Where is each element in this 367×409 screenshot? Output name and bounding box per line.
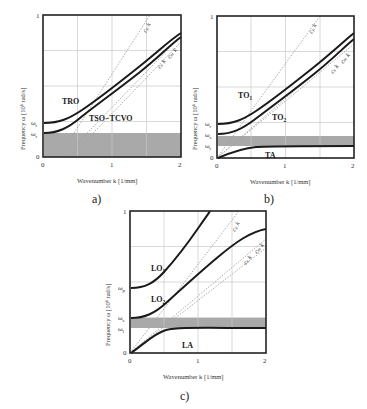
label-to2: TO2 bbox=[272, 113, 286, 123]
x-axis-label-c: Wavenumber k [1/mm] bbox=[163, 373, 224, 381]
y-axis-label-b: Frequency ω [10⁶ rad/s] bbox=[191, 88, 199, 150]
ytick-1-c: 1 bbox=[123, 208, 127, 216]
xtick-2-b: 2 bbox=[351, 162, 355, 170]
ytick-0-b: 0 bbox=[210, 154, 214, 162]
panel-caption-a: a) bbox=[92, 192, 101, 206]
x-axis-label-b: Wavenumber k [1/mm] bbox=[250, 178, 311, 186]
ytick-1-b: 1 bbox=[210, 13, 214, 21]
label-tro: TRO bbox=[62, 97, 79, 106]
figure: 1 0 ωt ωr 0 1 2 Wavenumber k [1/mm] Freq… bbox=[0, 0, 367, 409]
label-cs-a: cₛ k bbox=[155, 58, 167, 70]
label-cp-b: cₚ k bbox=[307, 22, 318, 34]
label-lo1: LO1 bbox=[151, 264, 166, 274]
curve-tro bbox=[44, 33, 181, 123]
label-cs-c: cₛ k bbox=[241, 254, 253, 266]
curve-ta bbox=[218, 146, 354, 158]
panel-b: 1 0 ωr ωs ωt 0 1 2 Wavenumber k [1/mm] F… bbox=[191, 13, 355, 206]
ytick-0-c: 0 bbox=[123, 349, 127, 357]
xtick-2-c: 2 bbox=[263, 357, 267, 365]
x-axis-label-a: Wavenumber k [1/mm] bbox=[77, 177, 138, 185]
curve-to1 bbox=[218, 33, 354, 124]
ytick-omega-r-b: ωr bbox=[205, 120, 212, 129]
panel-c: 1 0 ωp ωs ωl 0 1 2 Wavenumber k [1/mm] F… bbox=[104, 208, 267, 403]
label-cp-c: cₚ k bbox=[230, 220, 241, 232]
ytick-omega-t-b: ωt bbox=[205, 142, 212, 151]
xtick-0-b: 0 bbox=[215, 162, 219, 170]
xtick-1-b: 1 bbox=[283, 162, 287, 170]
ytick-omega-s-c: ωs bbox=[118, 314, 125, 323]
ytick-omega-s-b: ωs bbox=[205, 131, 212, 140]
ytick-omega-l-c: ωl bbox=[118, 325, 125, 334]
label-cp-a: cₚ k bbox=[141, 21, 152, 33]
label-lo2: LO2 bbox=[151, 295, 166, 305]
ytick-1-a: 1 bbox=[36, 12, 40, 20]
band-gap-b bbox=[218, 136, 354, 146]
ytick-omega-p-c: ωp bbox=[118, 284, 126, 293]
band-gap-a bbox=[44, 133, 181, 157]
y-axis-label-a: Frequency ω [10⁶ rad/s] bbox=[19, 88, 27, 150]
label-cm-b: cₘ k bbox=[338, 51, 351, 64]
panel-caption-b: b) bbox=[264, 192, 274, 206]
ytick-0-a: 0 bbox=[36, 153, 40, 161]
panel-a: 1 0 ωt ωr 0 1 2 Wavenumber k [1/mm] Freq… bbox=[19, 12, 182, 206]
xtick-0-a: 0 bbox=[41, 161, 45, 169]
label-to1: TO1 bbox=[238, 91, 252, 101]
grid-c bbox=[130, 211, 266, 353]
y-axis-label-c: Frequency ω [10⁶ rad/s] bbox=[104, 284, 112, 346]
label-cm-c: cₘ k bbox=[252, 241, 265, 254]
label-la: LA bbox=[182, 341, 193, 350]
panel-caption-c: c) bbox=[180, 389, 189, 403]
xtick-0-c: 0 bbox=[128, 357, 132, 365]
xtick-2-a: 2 bbox=[178, 161, 182, 169]
xtick-1-a: 1 bbox=[110, 161, 114, 169]
curve-la bbox=[131, 328, 266, 353]
band-gap-c bbox=[131, 318, 266, 328]
label-tso-tcvo: TSO−TCVO bbox=[89, 114, 133, 123]
label-ta: TA bbox=[265, 151, 276, 160]
curve-lo2 bbox=[131, 229, 266, 318]
ytick-omega-t-a: ωt bbox=[31, 119, 38, 128]
xtick-1-c: 1 bbox=[196, 357, 200, 365]
label-cs-b: cₛ k bbox=[328, 63, 340, 75]
ytick-omega-r-a: ωr bbox=[31, 130, 38, 139]
